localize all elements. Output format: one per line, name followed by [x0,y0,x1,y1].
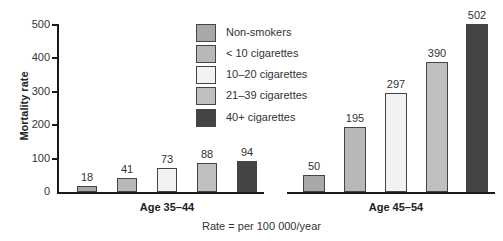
bar-value-label: 41 [107,163,147,175]
y-tick-label: 100 [20,152,50,164]
legend-swatch [196,24,216,42]
y-axis-line [57,24,59,193]
legend-label: Non-smokers [226,26,291,38]
bar [77,186,97,192]
bar-value-label: 94 [227,146,267,158]
rate-note: Rate = per 100 000/year [202,220,321,232]
bar-value-label: 390 [417,47,457,59]
y-tick-label: 200 [20,118,50,130]
bar [303,175,325,192]
bar [117,178,137,192]
legend-label: 21–39 cigarettes [226,89,307,101]
bar-value-label: 297 [376,78,416,90]
legend-label: 10–20 cigarettes [226,68,307,80]
bar-value-label: 88 [187,148,227,160]
bar [197,163,217,192]
bar [237,161,257,192]
y-tick [52,91,57,93]
group-label-1: Age 35–44 [117,201,217,213]
legend-swatch [196,109,216,127]
bar-value-label: 18 [67,171,107,183]
baseline-group-2 [287,192,495,194]
y-tick [52,24,57,26]
baseline-group-1 [57,192,264,194]
bar [385,93,407,192]
y-tick [52,158,57,160]
bar-value-label: 195 [335,112,375,124]
bar-value-label: 50 [294,160,334,172]
bar [157,168,177,192]
y-tick-label: 300 [20,85,50,97]
bar [466,24,488,192]
legend-label: < 10 cigarettes [226,47,298,59]
y-tick [52,57,57,59]
bar-value-label: 502 [457,9,497,21]
legend-swatch [196,87,216,105]
legend-swatch [196,66,216,84]
group-label-2: Age 45–54 [346,201,446,213]
y-tick [52,124,57,126]
y-tick-label: 500 [20,18,50,30]
legend-swatch [196,45,216,63]
bar [344,127,366,192]
bar-value-label: 73 [147,153,187,165]
y-tick-label: 400 [20,51,50,63]
y-tick-label: 0 [20,185,50,197]
legend-label: 40+ cigarettes [226,111,295,123]
bar [426,62,448,192]
y-axis-label: Mortality rate [18,66,30,146]
